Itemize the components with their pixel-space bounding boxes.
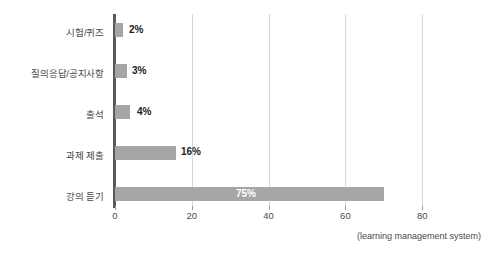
bar-qna-notice <box>115 64 127 78</box>
bar-value-exam-quiz: 2% <box>129 24 143 35</box>
category-label-lecture: 강의 듣기 <box>0 189 104 203</box>
bar-value-attendance: 4% <box>137 106 151 117</box>
tick-label-80: 80 <box>407 210 437 221</box>
tick-label-40: 40 <box>254 210 284 221</box>
chart-annotation: (learning management system) <box>357 231 481 241</box>
bar-chart: 시험/퀴즈 2% 질의응답/공지사항 3% 출석 4% 과제 제출 16% 강의… <box>0 0 491 255</box>
category-label-qna-notice: 질의응답/공지사항 <box>0 66 104 80</box>
bar-row-exam-quiz: 시험/퀴즈 2% <box>0 14 491 55</box>
bar-row-attendance: 출석 4% <box>0 96 491 137</box>
bar-exam-quiz <box>115 23 123 37</box>
tick-label-0: 0 <box>100 210 130 221</box>
bar-row-assignment: 과제 제출 16% <box>0 137 491 178</box>
bar-attendance <box>115 105 130 119</box>
bar-value-qna-notice: 3% <box>132 65 146 76</box>
category-label-exam-quiz: 시험/퀴즈 <box>0 25 104 39</box>
bar-assignment <box>115 146 176 160</box>
bar-row-qna-notice: 질의응답/공지사항 3% <box>0 55 491 96</box>
tick-label-20: 20 <box>177 210 207 221</box>
plot-area: 시험/퀴즈 2% 질의응답/공지사항 3% 출석 4% 과제 제출 16% 강의… <box>0 0 491 255</box>
category-label-attendance: 출석 <box>0 107 104 121</box>
bar-value-lecture: 75% <box>236 188 256 199</box>
tick-label-60: 60 <box>330 210 360 221</box>
bar-value-assignment: 16% <box>181 146 201 157</box>
category-label-assignment: 과제 제출 <box>0 148 104 162</box>
